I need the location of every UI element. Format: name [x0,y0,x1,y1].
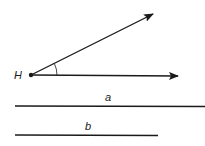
segment-b [15,135,158,136]
vertex-label: H [14,69,22,81]
upper-ray-arrow [31,14,153,75]
angle-arc [54,63,57,75]
segment-b-label: b [85,120,91,132]
horizontal-ray-arrow [31,75,178,76]
segment-a-label: a [105,91,111,103]
geometry-diagram: H a b [0,0,205,146]
vertex-point-h [29,73,33,77]
segment-a [15,106,205,107]
